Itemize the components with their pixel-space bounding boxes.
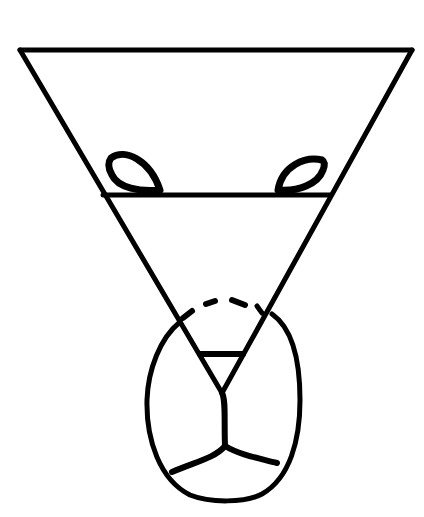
right-edge (222, 50, 412, 393)
stem (222, 393, 225, 446)
dashed-arc (183, 311, 192, 318)
diagram-canvas (0, 0, 424, 517)
left-branch (172, 446, 225, 472)
diagram-svg (0, 0, 424, 517)
left-oval (109, 155, 160, 191)
left-edge (20, 50, 222, 393)
dashed-arc-segment (257, 306, 262, 313)
dashed-arc-segment (232, 300, 245, 305)
right-branch (225, 446, 277, 463)
dashed-arc-segment (206, 301, 215, 304)
right-oval (278, 159, 324, 190)
